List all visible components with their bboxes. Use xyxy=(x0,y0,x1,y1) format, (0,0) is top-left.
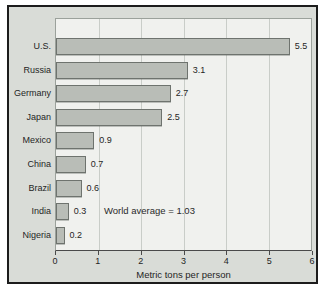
category-label: Mexico xyxy=(6,132,51,149)
tick-mark xyxy=(55,251,56,255)
value-label: 0.3 xyxy=(74,203,87,220)
value-label: 0.6 xyxy=(87,180,100,197)
value-label: 0.2 xyxy=(69,227,82,244)
tick-label: 4 xyxy=(216,256,236,266)
bar-row: Mexico0.9 xyxy=(56,132,311,149)
bar xyxy=(56,132,94,149)
category-label: Japan xyxy=(6,109,51,126)
value-label: 0.7 xyxy=(91,156,104,173)
tick-mark xyxy=(226,251,227,255)
bar xyxy=(56,156,86,173)
plot-area: U.S.5.5Russia3.1Germany2.7Japan2.5Mexico… xyxy=(55,18,312,251)
value-label: 2.7 xyxy=(176,85,189,102)
tick-label: 0 xyxy=(45,256,65,266)
bar xyxy=(56,203,69,220)
tick-label: 1 xyxy=(88,256,108,266)
bar xyxy=(56,109,162,126)
value-label: 3.1 xyxy=(193,62,206,79)
tick-label: 2 xyxy=(131,256,151,266)
bar-row: Japan2.5 xyxy=(56,109,311,126)
bar xyxy=(56,227,65,244)
category-label: U.S. xyxy=(6,38,51,55)
tick-mark xyxy=(141,251,142,255)
x-axis-ticks: 0123456 xyxy=(55,251,312,269)
value-label: 2.5 xyxy=(167,109,180,126)
category-label: Brazil xyxy=(6,180,51,197)
bar xyxy=(56,38,290,55)
bar xyxy=(56,85,171,102)
bar-row: Brazil0.6 xyxy=(56,180,311,197)
bar xyxy=(56,180,82,197)
tick-mark xyxy=(269,251,270,255)
bar-row: U.S.5.5 xyxy=(56,38,311,55)
tick-mark xyxy=(312,251,313,255)
category-label: India xyxy=(6,203,51,220)
bar-row: Nigeria0.2 xyxy=(56,227,311,244)
tick-mark xyxy=(98,251,99,255)
world-average-annotation: World average = 1.03 xyxy=(104,205,195,216)
tick-mark xyxy=(184,251,185,255)
value-label: 0.9 xyxy=(99,132,112,149)
bar xyxy=(56,62,188,79)
category-label: China xyxy=(6,156,51,173)
chart-panel: U.S.5.5Russia3.1Germany2.7Japan2.5Mexico… xyxy=(7,5,318,284)
value-label: 5.5 xyxy=(295,38,308,55)
bar-row: Russia3.1 xyxy=(56,62,311,79)
category-label: Nigeria xyxy=(6,227,51,244)
category-label: Russia xyxy=(6,62,51,79)
x-axis-title: Metric tons per person xyxy=(55,269,312,280)
tick-label: 3 xyxy=(174,256,194,266)
bar-row: China0.7 xyxy=(56,156,311,173)
category-label: Germany xyxy=(6,85,51,102)
bar-row: Germany2.7 xyxy=(56,85,311,102)
tick-label: 6 xyxy=(302,256,322,266)
tick-label: 5 xyxy=(259,256,279,266)
